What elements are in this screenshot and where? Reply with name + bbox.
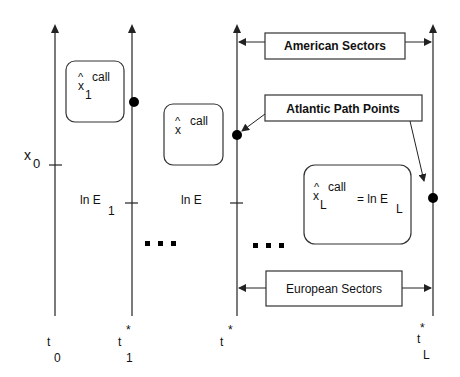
- diagram-canvas: x 0 ln E 1 ln E ^ x 1 call ^ x call ^ x …: [0, 0, 460, 377]
- time-axis-tLstar: [429, 24, 437, 316]
- time-label-tLstar: t * L: [417, 321, 430, 362]
- label-lnE: ln E: [181, 193, 202, 207]
- ellipsis-2: [253, 243, 284, 248]
- time-label-tstar: t *: [220, 323, 233, 349]
- svg-text:American Sectors: American Sectors: [284, 39, 386, 53]
- arrowhead-icon: [51, 24, 59, 33]
- path-point-t1: [129, 97, 139, 107]
- svg-text:= ln E: = ln E: [357, 192, 388, 206]
- box-xhatL-call-equals-lnEL: ^ x L call = ln E L: [304, 165, 411, 244]
- svg-text:0: 0: [54, 351, 61, 365]
- svg-text:European Sectors: European Sectors: [286, 282, 382, 296]
- svg-text:t: t: [47, 335, 51, 349]
- time-axis-t0: [51, 24, 59, 316]
- svg-text:t: t: [118, 335, 122, 349]
- path-point-tstar: [232, 130, 242, 140]
- svg-text:call: call: [328, 180, 346, 194]
- svg-text:ln E: ln E: [181, 193, 202, 207]
- svg-text:x: x: [24, 147, 31, 163]
- diagram-svg: x 0 ln E 1 ln E ^ x 1 call ^ x call ^ x …: [0, 0, 460, 377]
- svg-text:1: 1: [126, 351, 133, 365]
- svg-text:call: call: [190, 114, 208, 128]
- svg-text:1: 1: [108, 204, 115, 218]
- svg-text:L: L: [396, 202, 403, 216]
- time-label-t1star: t * 1: [118, 323, 133, 365]
- arrowhead-icon: [233, 24, 241, 33]
- svg-text:0: 0: [33, 156, 40, 171]
- box-xhat-call: ^ x call: [164, 104, 223, 165]
- svg-text:x: x: [175, 123, 181, 137]
- svg-text:call: call: [92, 70, 110, 84]
- arrowhead-icon: [128, 24, 136, 33]
- time-axis-tstar: [233, 24, 241, 316]
- box-xhat1-call: ^ x 1 call: [66, 61, 124, 122]
- svg-text:L: L: [423, 348, 430, 362]
- time-axis-t1star: [128, 24, 136, 316]
- svg-text:t: t: [220, 335, 224, 349]
- svg-text:x: x: [313, 189, 319, 203]
- time-label-t0: t 0: [47, 335, 61, 365]
- path-point-tL: [428, 193, 438, 203]
- arrowhead-icon: [429, 24, 437, 33]
- svg-text:*: *: [126, 323, 131, 337]
- label-x0: x 0: [24, 147, 40, 171]
- svg-text:ln E: ln E: [80, 193, 101, 207]
- european-sectors-callout: European Sectors: [239, 271, 431, 306]
- svg-text:L: L: [320, 198, 327, 212]
- svg-text:1: 1: [85, 88, 92, 102]
- svg-text:Atlantic Path Points: Atlantic Path Points: [286, 102, 400, 116]
- svg-text:x: x: [78, 79, 84, 93]
- ellipsis-1: [145, 241, 176, 246]
- american-sectors-callout: American Sectors: [239, 33, 431, 59]
- label-lnE1: ln E 1: [80, 193, 115, 218]
- svg-text:*: *: [420, 321, 425, 335]
- svg-text:*: *: [228, 323, 233, 337]
